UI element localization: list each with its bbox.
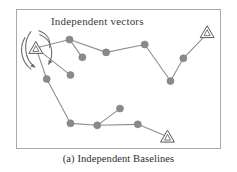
edge-T1-n1 [38, 40, 70, 48]
edge-n4-n5 [106, 45, 145, 53]
data-node[interactable] [67, 120, 74, 127]
edge-n5-n6 [145, 45, 171, 81]
arc-right [40, 35, 52, 65]
edge-n8-n9 [47, 79, 71, 123]
figure-container: Independent vectors [0, 0, 237, 172]
data-node[interactable] [141, 41, 148, 48]
triangle-anchor-marker[interactable] [29, 42, 43, 54]
data-node[interactable] [180, 55, 187, 62]
data-node[interactable] [103, 49, 110, 56]
figure-caption: (a) Independent Baselines [0, 153, 237, 164]
plot-frame: Independent vectors [16, 9, 221, 149]
edge-n10-n12 [97, 124, 138, 125]
data-node[interactable] [116, 105, 123, 112]
edge-n10-n11 [97, 109, 120, 126]
edge-n12-T3 [138, 124, 167, 136]
edge-group [37, 35, 206, 137]
edge-n1-n4 [69, 40, 106, 53]
triangle-anchor-marker[interactable] [200, 26, 214, 38]
data-node[interactable] [79, 54, 86, 61]
node-group [43, 36, 187, 129]
edge-n6-n7 [170, 58, 183, 81]
data-node[interactable] [167, 77, 174, 84]
data-node[interactable] [94, 122, 101, 129]
triangle-anchor-marker[interactable] [161, 130, 175, 142]
data-node[interactable] [67, 72, 74, 79]
edge-n7-T2 [183, 35, 206, 59]
data-node[interactable] [43, 75, 50, 82]
data-node[interactable] [66, 36, 73, 43]
scatter-plot-svg [17, 10, 220, 148]
edge-n9-n10 [70, 123, 97, 125]
data-node[interactable] [134, 121, 141, 128]
